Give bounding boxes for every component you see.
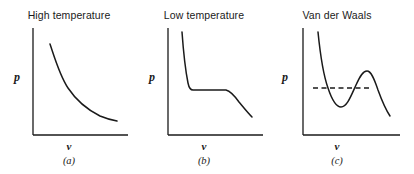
panel-low-temperature: Low temperature p v (b)	[135, 0, 273, 174]
x-axis-label-volume: v	[0, 140, 138, 152]
isotherm-curve-van-der-waals	[318, 32, 390, 116]
isotherm-curve-high-temperature	[50, 44, 117, 121]
panel-van-der-waals: Van der Waals p v (c)	[268, 0, 406, 174]
panel-caption-b: (b)	[135, 155, 273, 166]
panel-caption-a: (a)	[0, 155, 138, 166]
isotherm-curve-low-temperature	[182, 32, 252, 117]
panel-caption-c: (c)	[268, 155, 406, 166]
pressure-volume-isotherms-figure: High temperature p v (a) Low temperature…	[0, 0, 414, 174]
x-axis-label-volume: v	[268, 140, 406, 152]
x-axis-label-volume: v	[135, 140, 273, 152]
panel-high-temperature: High temperature p v (a)	[0, 0, 138, 174]
